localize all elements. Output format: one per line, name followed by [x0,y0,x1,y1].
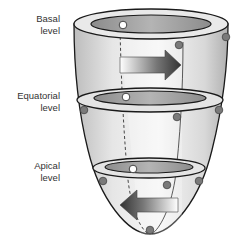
equatorial-label-line2: level [40,102,60,113]
marker-open [129,165,137,173]
basal-label: Basal level [0,13,60,37]
basal-label-line1: Basal [36,13,60,24]
marker-filled [146,226,154,234]
apical-ring-inner [105,161,193,173]
equatorial-ring-inner [94,91,206,105]
marker-filled [215,106,223,114]
marker-open [122,93,130,101]
marker-open [119,21,127,29]
marker-filled [80,106,88,114]
basal-label-line2: level [40,25,60,36]
marker-filled [173,113,181,121]
basal-ring-inner [91,15,211,33]
marker-filled [163,181,171,189]
marker-filled [195,177,203,185]
equatorial-label: Equatorial level [0,90,60,114]
marker-filled [175,41,183,49]
apical-label-line2: level [40,172,60,183]
apical-label: Apical level [0,160,60,184]
marker-filled [222,33,230,41]
equatorial-label-line1: Equatorial [17,90,60,101]
apical-label-line1: Apical [34,160,60,171]
marker-filled [99,177,107,185]
